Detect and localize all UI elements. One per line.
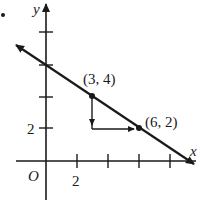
point-label-3-4: (3, 4) bbox=[83, 71, 116, 88]
bullet-dot bbox=[1, 13, 5, 17]
coordinate-graph: y x 2 2 O (3, 4) bbox=[0, 0, 200, 213]
y-tick-label: 2 bbox=[27, 121, 35, 137]
point-label-6-2: (6, 2) bbox=[145, 114, 178, 131]
x-tick-label: 2 bbox=[72, 173, 80, 189]
point-3-4 bbox=[89, 93, 95, 99]
y-axis-label: y bbox=[31, 1, 40, 17]
origin-label: O bbox=[28, 168, 39, 184]
graph-line-extension bbox=[16, 45, 46, 65]
point-6-2 bbox=[136, 125, 142, 131]
x-axis-label: x bbox=[189, 143, 197, 159]
